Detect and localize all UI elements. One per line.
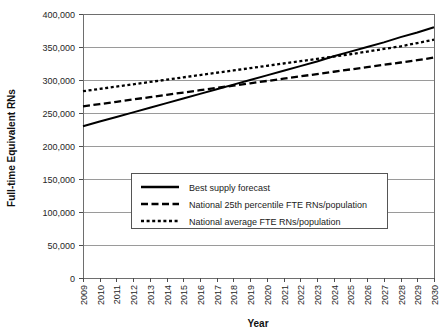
x-tick-label: 2026	[363, 285, 373, 305]
x-axis-title: Year	[247, 318, 268, 329]
line-chart: 400,000350,000300,000250,000200,000150,0…	[0, 0, 444, 335]
x-tick-label: 2011	[112, 285, 122, 304]
y-tick-label: 0	[70, 274, 75, 284]
x-tick-label: 2025	[346, 285, 356, 305]
y-tick-label: 400,000	[42, 10, 75, 20]
y-tick-label: 350,000	[42, 43, 75, 53]
x-tick-label: 2018	[229, 285, 239, 305]
data-series	[83, 27, 434, 126]
series-line-2	[83, 58, 434, 107]
chart-legend: Best supply forecastNational 25th percen…	[132, 174, 388, 229]
x-tick-label: 2027	[380, 285, 390, 305]
legend-label-2: National 25th percentile FTE RNs/populat…	[189, 200, 367, 210]
y-tick-label: 250,000	[42, 109, 75, 119]
y-axis-ticks: 400,000350,000300,000250,000200,000150,0…	[42, 10, 83, 284]
y-tick-label: 200,000	[42, 142, 75, 152]
chart-container: 400,000350,000300,000250,000200,000150,0…	[0, 0, 444, 335]
legend-label-3: National average FTE RNs/population	[189, 217, 341, 227]
x-tick-label: 2023	[313, 285, 323, 305]
x-tick-label: 2019	[246, 285, 256, 305]
x-tick-label: 2014	[163, 285, 173, 305]
x-tick-label: 2030	[430, 285, 440, 305]
legend-label-1: Best supply forecast	[189, 183, 271, 193]
x-tick-label: 2022	[296, 285, 306, 305]
x-tick-label: 2012	[129, 285, 139, 305]
x-tick-label: 2028	[397, 285, 407, 305]
x-tick-label: 2021	[280, 285, 290, 305]
gridlines	[83, 15, 434, 279]
y-tick-label: 100,000	[42, 208, 75, 218]
y-axis-title: Full-time Equivalent RNs	[6, 89, 17, 207]
x-tick-label: 2013	[146, 285, 156, 305]
x-axis-ticks: 2009201020112012201320142015201620172018…	[79, 278, 440, 305]
x-tick-label: 2010	[96, 285, 106, 305]
y-tick-label: 300,000	[42, 76, 75, 86]
x-tick-label: 2024	[330, 285, 340, 305]
x-tick-label: 2009	[79, 285, 89, 305]
x-tick-label: 2016	[196, 285, 206, 305]
x-tick-label: 2020	[263, 285, 273, 305]
series-line-1	[83, 27, 434, 126]
x-tick-label: 2015	[179, 285, 189, 305]
x-tick-label: 2017	[213, 285, 223, 305]
y-tick-label: 150,000	[42, 175, 75, 185]
y-tick-label: 50,000	[47, 241, 75, 251]
x-tick-label: 2029	[413, 285, 423, 305]
